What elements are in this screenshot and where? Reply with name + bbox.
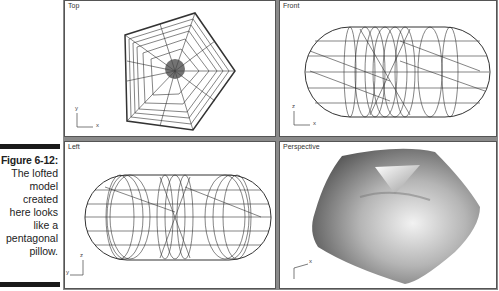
axis-label-z: z: [292, 103, 295, 109]
figure-caption-column: Figure 6-12: The lofted model created he…: [0, 0, 62, 291]
figure-label: Figure 6-12:: [0, 154, 58, 167]
viewport-label: Front: [283, 2, 299, 9]
viewport-top[interactable]: Top y x: [64, 0, 276, 137]
dense-mesh-center: [165, 59, 185, 79]
caption-bottom-rule: [0, 282, 60, 287]
caption-line: The lofted: [0, 167, 58, 180]
axis-label-x: x: [309, 258, 312, 264]
pillow-wireframe-left: [65, 142, 276, 289]
viewport-label: Left: [68, 143, 80, 150]
viewport-perspective[interactable]: Perspective x: [279, 141, 497, 289]
caption-line: here looks: [0, 206, 58, 219]
pentagon-wireframe-top: [65, 1, 276, 137]
figure-caption: Figure 6-12: The lofted model created he…: [0, 154, 58, 258]
pillow-shaded-perspective: [280, 142, 497, 289]
viewport-label: Perspective: [283, 143, 320, 150]
caption-line: pentagonal: [0, 232, 58, 245]
caption-line: created: [0, 193, 58, 206]
axis-label-x: x: [96, 122, 99, 128]
pillow-wireframe-front: [280, 1, 497, 137]
viewport-grid: Top y x Front z x: [63, 0, 498, 290]
axis-label-y: y: [66, 269, 69, 275]
caption-line: like a: [0, 219, 58, 232]
viewport-front[interactable]: Front z x: [279, 0, 497, 137]
caption-top-rule: [0, 144, 60, 149]
viewport-left[interactable]: Left z y: [64, 141, 276, 289]
axis-label-x: x: [313, 120, 316, 126]
axis-label-y: y: [75, 105, 78, 111]
caption-line: pillow.: [0, 245, 58, 258]
viewport-label: Top: [68, 2, 79, 9]
axis-label-z: z: [80, 252, 83, 258]
caption-line: model: [0, 180, 58, 193]
